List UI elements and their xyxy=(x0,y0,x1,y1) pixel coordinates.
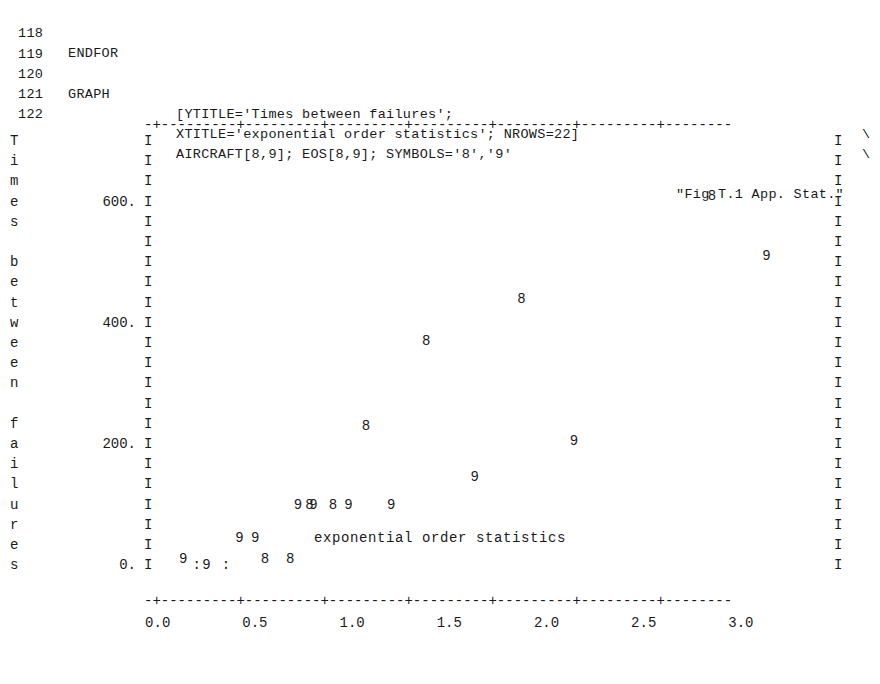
plot-border-char: I xyxy=(834,558,842,572)
plot-border-char: I xyxy=(834,498,842,512)
plot-border-char: I xyxy=(144,275,152,289)
code-line: 120 GRAPH [YTITLE='Times between failure… xyxy=(0,45,880,65)
plot-point-8: 8 xyxy=(362,419,370,433)
plot-baseline-marker: : xyxy=(222,558,230,572)
x-axis-title: exponential order statistics xyxy=(0,530,880,546)
y-axis-title-char: i xyxy=(10,154,18,168)
y-axis-title-char: a xyxy=(10,437,18,451)
plot-border-char: I xyxy=(834,275,842,289)
source-code-listing: 118 ENDFOR 119 120 GRAPH [YTITLE='Times … xyxy=(0,0,880,112)
x-axis-tick-label: 0.0 xyxy=(138,616,178,630)
y-axis-title-char: e xyxy=(10,356,18,370)
y-axis-title-char: s xyxy=(10,215,18,229)
plot-point-9: 9 xyxy=(344,498,352,512)
plot-point-8: 8 xyxy=(422,334,430,348)
plot-point-9: 9 xyxy=(294,498,302,512)
plot-point-9: 9 xyxy=(471,470,479,484)
y-axis-title-char: e xyxy=(10,336,18,350)
plot-border-char: I xyxy=(834,376,842,390)
plot-baseline-marker: : xyxy=(193,558,201,572)
y-axis-title-char: s xyxy=(10,558,18,572)
plot-border-char: I xyxy=(144,215,152,229)
plot-border-char: I xyxy=(144,134,152,148)
plot-border-char: I xyxy=(834,134,842,148)
code-line: 119 xyxy=(0,25,880,45)
plot-point-8: 8 xyxy=(286,552,294,566)
plot-point-9: 9 xyxy=(570,434,578,448)
code-line: 121 XTITLE='exponential order statistics… xyxy=(0,65,880,85)
plot-border-char: I xyxy=(834,154,842,168)
plot-border-char: I xyxy=(834,336,842,350)
plot-point-9: 9 xyxy=(762,249,770,263)
plot-border-char: I xyxy=(144,498,152,512)
x-axis-tick-label: 1.5 xyxy=(429,616,469,630)
plot-point-8: 8 xyxy=(261,552,269,566)
plot-border-char: I xyxy=(144,437,152,451)
plot-border-char: I xyxy=(144,174,152,188)
plot-border-char: I xyxy=(834,457,842,471)
plot-border-char: I xyxy=(144,397,152,411)
y-axis-title-char: i xyxy=(10,457,18,471)
plot-point-8: 8 xyxy=(708,189,716,203)
plot-border-char: I xyxy=(834,235,842,249)
y-axis-tick-label: 400. xyxy=(72,316,136,330)
y-axis-title-char: u xyxy=(10,498,18,512)
plot-border-char: I xyxy=(144,255,152,269)
plot-border-char: I xyxy=(144,154,152,168)
plot-border-char: I xyxy=(834,215,842,229)
plot-border-char: I xyxy=(144,356,152,370)
y-axis-title-char: m xyxy=(10,174,18,188)
y-axis-title-char: f xyxy=(10,417,18,431)
plot-point-8: 8 xyxy=(517,292,525,306)
plot-border-char: I xyxy=(144,376,152,390)
plot-border-char: I xyxy=(834,174,842,188)
x-axis-tick-label: 0.5 xyxy=(235,616,275,630)
x-axis-tick-label: 2.0 xyxy=(527,616,567,630)
y-axis-tick-label: 200. xyxy=(72,437,136,451)
plot-border-char: I xyxy=(144,235,152,249)
plot-border-char: I xyxy=(144,417,152,431)
plot-border-char: I xyxy=(144,477,152,491)
plot-border-char: I xyxy=(834,397,842,411)
plot-point-8: 8 xyxy=(329,498,337,512)
y-axis-title-char: t xyxy=(10,296,18,310)
y-axis-title-char: n xyxy=(10,376,18,390)
code-line: 118 ENDFOR xyxy=(0,4,880,24)
plot-border-char: I xyxy=(144,296,152,310)
plot-border-char: I xyxy=(834,316,842,330)
y-axis-title-char: l xyxy=(10,477,18,491)
y-axis-title-char: T xyxy=(10,134,18,148)
plot-border-char: I xyxy=(834,437,842,451)
y-axis-title-char: e xyxy=(10,195,18,209)
plot-baseline-marker: 9 xyxy=(202,558,210,572)
y-axis-tick-label: 600. xyxy=(72,195,136,209)
plot-border-char: I xyxy=(834,417,842,431)
plot-border-char: I xyxy=(834,195,842,209)
plot-point-9: 9 xyxy=(387,498,395,512)
plot-border-char: I xyxy=(144,457,152,471)
plot-top-frame: -+---------+---------+---------+--------… xyxy=(144,118,732,132)
x-axis-tick-label: 1.0 xyxy=(332,616,372,630)
ascii-scatter-plot: Timesbetweenfailures 600.400.200.0. IIII… xyxy=(0,118,880,684)
x-axis-tick-label: 3.0 xyxy=(721,616,761,630)
plot-border-char: I xyxy=(144,558,152,572)
code-line: 122 AIRCRAFT[8,9]; EOS[8,9]; SYMBOLS='8'… xyxy=(0,85,880,105)
plot-point-9: 9 xyxy=(179,552,187,566)
plot-bottom-frame: -+---------+---------+---------+--------… xyxy=(144,594,732,608)
plot-border-char: I xyxy=(834,255,842,269)
y-axis-tick-label: 0. xyxy=(72,558,136,572)
plot-point-9: 9 xyxy=(309,498,317,512)
y-axis-title-char: b xyxy=(10,255,18,269)
y-axis-title-char: e xyxy=(10,275,18,289)
plot-border-char: I xyxy=(144,195,152,209)
plot-border-char: I xyxy=(834,296,842,310)
plot-border-char: I xyxy=(144,336,152,350)
x-axis-tick-label: 2.5 xyxy=(624,616,664,630)
y-axis-title-char: w xyxy=(10,316,18,330)
plot-border-char: I xyxy=(834,477,842,491)
plot-border-char: I xyxy=(834,356,842,370)
plot-border-char: I xyxy=(144,316,152,330)
